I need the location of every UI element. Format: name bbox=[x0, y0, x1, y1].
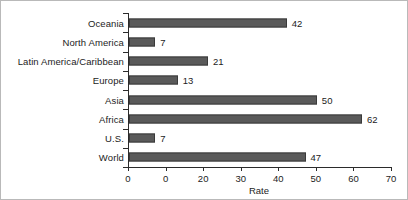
bar-value-label: 50 bbox=[322, 94, 333, 105]
bar bbox=[129, 18, 287, 27]
plot-area: Oceania42North America7Latin America/Car… bbox=[1, 1, 408, 200]
category-label: Oceania bbox=[88, 17, 124, 28]
y-axis-tick bbox=[123, 148, 128, 149]
x-axis-line bbox=[128, 167, 391, 168]
bar bbox=[129, 76, 178, 85]
bar-value-label: 7 bbox=[160, 133, 165, 144]
y-axis-tick bbox=[123, 109, 128, 110]
x-axis-tick-label: 60 bbox=[348, 173, 359, 184]
bar-row: Latin America/Caribbean21 bbox=[1, 52, 408, 71]
category-label: Latin America/Caribbean bbox=[18, 56, 124, 67]
bar-row: North America7 bbox=[1, 32, 408, 51]
bar-chart-figure: Oceania42North America7Latin America/Car… bbox=[0, 0, 408, 200]
x-axis-tick bbox=[128, 167, 129, 171]
x-axis-title: Rate bbox=[249, 185, 269, 196]
bar-value-label: 21 bbox=[213, 56, 224, 67]
bar-row: Asia50 bbox=[1, 90, 408, 109]
x-axis-tick bbox=[241, 167, 242, 171]
x-axis-tick bbox=[391, 167, 392, 171]
x-axis-tick-label: 40 bbox=[273, 173, 284, 184]
category-label: U.S. bbox=[105, 133, 124, 144]
bar-value-label: 47 bbox=[311, 152, 322, 163]
x-axis-tick-label: 70 bbox=[386, 173, 397, 184]
bar bbox=[129, 95, 317, 104]
bar bbox=[129, 114, 362, 123]
y-axis-tick bbox=[123, 52, 128, 53]
x-axis-tick-label: 0 bbox=[125, 173, 130, 184]
y-axis-tick bbox=[123, 13, 128, 14]
x-axis-tick bbox=[278, 167, 279, 171]
y-axis-line bbox=[128, 13, 129, 167]
y-axis-tick bbox=[123, 71, 128, 72]
bar bbox=[129, 57, 208, 66]
x-axis-tick bbox=[316, 167, 317, 171]
x-axis-tick bbox=[203, 167, 204, 171]
bar-row: Oceania42 bbox=[1, 13, 408, 32]
bar-value-label: 62 bbox=[367, 113, 378, 124]
bar bbox=[129, 37, 155, 46]
bar-value-label: 7 bbox=[160, 36, 165, 47]
x-axis-tick bbox=[166, 167, 167, 171]
y-axis-tick bbox=[123, 129, 128, 130]
y-axis-tick bbox=[123, 90, 128, 91]
bar-row: Africa62 bbox=[1, 109, 408, 128]
bar bbox=[129, 134, 155, 143]
x-axis-tick-label: 0 bbox=[163, 173, 168, 184]
x-axis-tick-label: 20 bbox=[198, 173, 209, 184]
bar-row: World47 bbox=[1, 148, 408, 167]
bar bbox=[129, 153, 306, 162]
x-axis-tick-label: 30 bbox=[235, 173, 246, 184]
bar-value-label: 42 bbox=[292, 17, 303, 28]
bar-value-label: 13 bbox=[183, 75, 194, 86]
category-label: Africa bbox=[99, 113, 124, 124]
category-label: North America bbox=[63, 36, 125, 47]
category-label: Asia bbox=[105, 94, 124, 105]
x-axis-tick bbox=[353, 167, 354, 171]
category-label: World bbox=[99, 152, 124, 163]
bar-row: Europe13 bbox=[1, 71, 408, 90]
y-axis-tick bbox=[123, 32, 128, 33]
bar-row: U.S.7 bbox=[1, 129, 408, 148]
category-label: Europe bbox=[93, 75, 124, 86]
x-axis-tick-label: 50 bbox=[311, 173, 322, 184]
